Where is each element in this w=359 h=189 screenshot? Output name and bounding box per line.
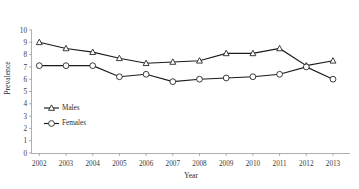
circle-marker-icon [330,76,336,82]
circle-marker-icon [90,63,96,69]
y-axis-tick-labels: 012345678910 [20,27,32,158]
circle-marker-icon [49,121,55,127]
legend-item-females[interactable]: Females [44,119,86,127]
legend-item-males[interactable]: Males [44,104,80,112]
y-tick-label: 10 [20,27,28,35]
x-tick-label: 2003 [59,160,74,168]
x-tick-label: 2009 [219,160,234,168]
y-tick-label: 1 [23,137,27,145]
series-females [36,63,336,85]
y-tick-label: 3 [23,113,27,121]
x-axis: 2002200320042005200620072008200920102011… [32,154,351,181]
y-axis: 012345678910 Prevalence [3,27,32,158]
y-tick-label: 9 [23,39,27,47]
x-tick-label: 2011 [273,160,288,168]
y-tick-label: 5 [23,88,27,96]
triangle-marker-icon [330,58,336,63]
circle-marker-icon [197,76,203,82]
chart-canvas: 012345678910 Prevalence 2002200320042005… [0,0,359,189]
triangle-marker-icon [277,45,283,50]
circle-marker-icon [117,74,123,80]
series-males [36,39,336,68]
x-tick-label: 2006 [139,160,154,168]
triangle-marker-icon [36,39,42,44]
series-line-females [39,66,333,82]
circle-marker-icon [223,75,229,81]
circle-marker-icon [303,64,309,70]
prevalence-by-year-line-chart: 012345678910 Prevalence 2002200320042005… [0,0,359,189]
data-series-group [36,39,336,84]
circle-marker-icon [250,74,256,80]
x-axis-tick-labels: 2002200320042005200620072008200920102011… [32,154,340,169]
circle-marker-icon [143,71,149,77]
y-tick-label: 8 [23,51,27,59]
chart-legend: MalesFemales [44,104,86,128]
circle-marker-icon [170,79,176,85]
series-line-males [39,42,333,65]
legend-label: Females [62,119,86,127]
circle-marker-icon [277,71,283,77]
y-tick-label: 7 [23,64,27,72]
x-tick-label: 2007 [166,160,181,168]
x-tick-label: 2005 [112,160,127,168]
y-tick-label: 0 [23,150,27,158]
circle-marker-icon [36,63,42,69]
y-tick-label: 2 [23,125,27,133]
y-axis-title: Prevalence [3,61,12,95]
x-tick-label: 2002 [32,160,47,168]
x-tick-label: 2008 [192,160,207,168]
x-tick-label: 2010 [246,160,261,168]
x-tick-label: 2012 [299,160,314,168]
x-tick-label: 2004 [86,160,101,168]
x-axis-title: Year [184,171,198,180]
y-tick-label: 6 [23,76,27,84]
y-tick-label: 4 [23,100,27,108]
legend-label: Males [62,104,80,112]
circle-marker-icon [63,63,69,69]
x-tick-label: 2013 [326,160,341,168]
